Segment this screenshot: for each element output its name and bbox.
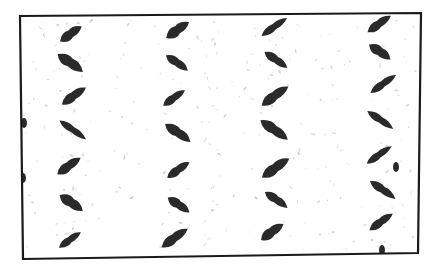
tread-marks [20,12,399,255]
texture-canvas [0,0,441,274]
tread-plate-texture: Black and white texture of a diamond/tre… [0,0,441,274]
speckles [25,18,417,250]
